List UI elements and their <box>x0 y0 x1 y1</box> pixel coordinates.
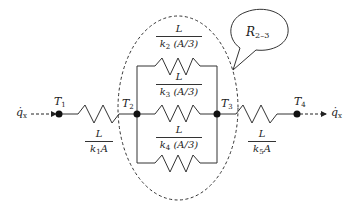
heat-flow-subscript: x <box>338 112 342 120</box>
node-subscript: 4 <box>301 101 305 109</box>
node-t2 <box>134 111 141 118</box>
fraction-denominator: k3 (A/3) <box>157 85 201 99</box>
resistor-r3-label: L k3 (A/3) <box>157 72 201 99</box>
area-symbol: A <box>264 143 271 154</box>
node-t4 <box>294 111 301 118</box>
node-subscript: 2 <box>129 103 133 111</box>
callout-label: R2–3 <box>246 26 269 40</box>
resistor-r1-label: L k1A <box>86 129 112 156</box>
fraction-denominator: k4 (A/3) <box>157 138 201 152</box>
node-t2-label: T2 <box>122 98 134 111</box>
heat-flow-symbol: q̇ <box>331 106 338 119</box>
area-symbol: (A/3) <box>173 139 198 150</box>
fraction-numerator: L <box>157 125 201 137</box>
fraction-denominator: k1A <box>86 142 112 156</box>
fraction-denominator: k5A <box>249 142 275 156</box>
fraction-numerator: L <box>157 24 201 36</box>
area-symbol: (A/3) <box>173 86 198 97</box>
node-t3-label: T3 <box>221 98 233 111</box>
resistor-r4 <box>137 155 217 172</box>
heat-flow-subscript: x <box>23 112 27 120</box>
resistor-r3 <box>137 105 217 122</box>
fraction-numerator: L <box>249 129 275 141</box>
node-subscript: 1 <box>61 101 65 109</box>
k-subscript: 4 <box>166 144 170 152</box>
fraction-denominator: k2 (A/3) <box>157 37 201 51</box>
k-subscript: 3 <box>166 91 170 99</box>
heat-flow-symbol: q̇ <box>16 106 23 119</box>
area-symbol: A <box>101 143 108 154</box>
k-subscript: 2 <box>166 43 170 51</box>
resistor-r2-label: L k2 (A/3) <box>157 24 201 51</box>
fraction-numerator: L <box>86 129 112 141</box>
node-t1-label: T1 <box>54 96 66 109</box>
fraction-numerator: L <box>157 72 201 84</box>
heat-flow-out-label: q̇x <box>331 107 342 120</box>
node-t3 <box>214 111 221 118</box>
resistor-r5-label: L k5A <box>249 129 275 156</box>
area-symbol: (A/3) <box>173 38 198 49</box>
node-subscript: 3 <box>228 103 232 111</box>
node-t1 <box>56 111 63 118</box>
resistor-r4-label: L k4 (A/3) <box>157 125 201 152</box>
callout-symbol: R <box>246 25 255 39</box>
node-t4-label: T4 <box>294 96 306 109</box>
callout-subscript: 2–3 <box>255 31 269 40</box>
heat-flow-in-label: q̇x <box>16 107 27 120</box>
